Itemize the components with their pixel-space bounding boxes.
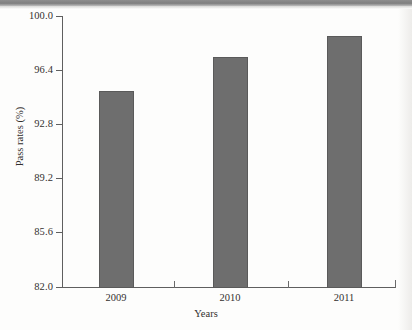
- y-tick-label-96-4: 96.4: [5, 65, 53, 75]
- y-tick-89-2: [56, 178, 63, 179]
- x-tick-label-2010: 2010: [200, 292, 260, 304]
- y-tick-92-8: [56, 124, 63, 125]
- bar-2010: [213, 57, 248, 288]
- x-axis-title: Years: [0, 308, 412, 319]
- paper-texture: [398, 9, 412, 330]
- x-tick-label-2011: 2011: [314, 292, 374, 304]
- y-tick-label-89-2: 89.2: [5, 173, 53, 183]
- y-tick-label-92-8: 92.8: [5, 119, 53, 129]
- bar-2009: [99, 91, 134, 288]
- y-tick-82-0: [56, 287, 63, 288]
- x-tick-separator-1: [174, 281, 175, 288]
- y-tick-100-0: [56, 16, 63, 17]
- bar-chart-figure: 100.0 96.4 92.8 89.2 85.6 82.0 2009 2010…: [0, 0, 412, 330]
- y-tick-label-85-6: 85.6: [5, 227, 53, 237]
- y-tick-label-82-0: 82.0: [5, 282, 53, 292]
- y-tick-85-6: [56, 232, 63, 233]
- scan-artifact-band-fade: [0, 6, 412, 9]
- y-tick-label-100-0: 100.0: [5, 11, 53, 21]
- y-axis-title: Pass rates (%): [14, 77, 25, 197]
- bar-2011: [327, 36, 362, 288]
- x-tick-separator-2: [288, 281, 289, 288]
- x-tick-label-2009: 2009: [86, 292, 146, 304]
- y-tick-96-4: [56, 70, 63, 71]
- x-axis-end-tick: [395, 280, 396, 288]
- y-axis-line: [62, 16, 63, 288]
